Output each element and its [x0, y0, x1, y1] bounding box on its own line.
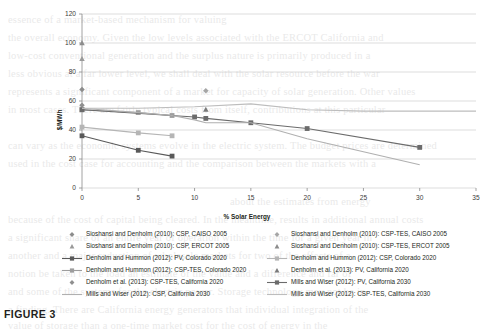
data-point [80, 133, 85, 138]
data-point [192, 115, 197, 120]
x-axis-title: % Solar Energy [224, 213, 271, 221]
legend-item-label: Denholm et al. (2013): CSP-TES, Californ… [86, 279, 223, 285]
legend-item[interactable]: Mills and Wiser (2012): CSP, California … [62, 290, 267, 299]
series-line [82, 110, 420, 148]
series-0 [79, 87, 85, 93]
series-line [82, 127, 172, 136]
legend-item-label: Mills and Wiser (2012): CSP, California … [86, 291, 210, 297]
legend-item-label: Sioshansi and Denholm (2010): CSP-TES, E… [291, 243, 449, 249]
y-tick-label: 60 [69, 97, 77, 104]
legend-item[interactable]: Denholm and Hummon (2012): PV, Colorado … [62, 254, 267, 263]
solar-value-scatter-chart: 05101520253035 020406080100120 % Solar E… [0, 0, 491, 225]
legend-item[interactable]: Sioshansi and Denholm (2010): CSP, ERCOT… [62, 242, 267, 251]
data-point [79, 40, 85, 45]
series-10 [82, 108, 420, 165]
x-tick-label: 0 [80, 194, 84, 201]
series-5 [80, 125, 175, 139]
legend-item-label: Mills and Wiser (2012): PV, California 2… [291, 279, 411, 285]
data-point [79, 103, 85, 109]
square-marker-icon [267, 278, 287, 287]
x-tick-labels: 05101520253035 [80, 194, 480, 201]
x-tick-label: 20 [303, 194, 311, 201]
series-2 [79, 56, 85, 61]
series-4 [80, 133, 175, 158]
series-9 [80, 107, 423, 150]
series-line [82, 136, 172, 156]
legend-item-label: Denholm et al. (2013): PV, California 20… [291, 267, 409, 273]
legend-item[interactable]: Denholm et al. (2013): PV, California 20… [267, 266, 482, 275]
x-tick-label: 35 [472, 194, 480, 201]
y-tick-labels: 020406080100120 [65, 10, 76, 191]
data-point [136, 148, 141, 153]
square-marker-icon [62, 266, 82, 275]
series-line [82, 104, 476, 111]
chart-plot-area: 05101520253035 020406080100120 % Solar E… [0, 0, 491, 225]
y-tick-label: 100 [65, 39, 76, 46]
data-point [170, 154, 175, 159]
legend-item[interactable]: Mills and Wiser (2012): CSP-TES, Califor… [267, 290, 482, 299]
legend-item[interactable]: Mills and Wiser (2012): PV, California 2… [267, 278, 482, 287]
line-marker-icon [267, 290, 287, 299]
legend-item-label: Denholm and Hummon (2012): CSP, Colorado… [291, 255, 436, 261]
legend-item[interactable]: Sioshansi and Denholm (2010): CSP-TES, E… [267, 242, 482, 251]
line-marker-icon [62, 290, 82, 299]
square-marker-icon [62, 254, 82, 263]
figure-caption: FIGURE 3 [4, 308, 56, 320]
data-point [136, 131, 141, 136]
legend-item[interactable]: Sioshansi and Denholm (2010): CSP-TES, C… [267, 230, 482, 239]
diamond-marker-icon [267, 230, 287, 239]
y-tick-label: 20 [69, 155, 77, 162]
legend-item-label: Sioshansi and Denholm (2010): CSP, ERCOT… [86, 243, 229, 249]
data-series-group [79, 40, 476, 165]
y-tick-label: 120 [65, 10, 76, 17]
legend-item-label: Sioshansi and Denholm (2010): CSP, CAISO… [86, 231, 227, 237]
data-point [203, 88, 209, 94]
series-8 [79, 103, 85, 109]
y-tick-label: 80 [69, 68, 77, 75]
chart-legend: Sioshansi and Denholm (2010): CSP, CAISO… [62, 228, 482, 301]
data-point [417, 145, 422, 150]
legend-item[interactable]: Sioshansi and Denholm (2010): CSP, CAISO… [62, 230, 267, 239]
y-tick-label: 40 [69, 126, 77, 133]
x-tick-label: 25 [360, 194, 368, 201]
legend-item[interactable]: Denholm and Hummon (2012): CSP-TES, Colo… [62, 266, 267, 275]
legend-item-label: Mills and Wiser (2012): CSP-TES, Califor… [291, 291, 430, 297]
y-axis-title: $/MWh [56, 110, 64, 131]
x-tick-label: 10 [191, 194, 199, 201]
series-7 [203, 107, 209, 112]
triangle-marker-icon [62, 242, 82, 251]
series-line [82, 108, 420, 165]
triangle-marker-icon [267, 242, 287, 251]
data-point [305, 126, 310, 131]
diamond-marker-icon [62, 278, 82, 287]
data-point [79, 87, 85, 93]
data-point [203, 107, 209, 112]
legend-item[interactable]: Denholm and Hummon (2012): CSP, Colorado… [267, 254, 482, 263]
legend-item-label: Sioshansi and Denholm (2010): CSP-TES, C… [291, 231, 447, 237]
square-marker-icon [267, 254, 287, 263]
data-point [80, 125, 85, 130]
legend-item-label: Denholm and Hummon (2012): PV, Colorado … [86, 255, 227, 261]
data-point [170, 133, 175, 138]
data-point [203, 116, 208, 121]
data-point [79, 56, 85, 61]
series-3 [79, 40, 85, 45]
legend-item-label: Denholm and Hummon (2012): CSP-TES, Colo… [86, 267, 246, 273]
series-11 [82, 104, 476, 111]
gridlines [82, 14, 476, 188]
x-tick-label: 5 [136, 194, 140, 201]
x-tick-label: 30 [416, 194, 424, 201]
diamond-marker-icon [62, 230, 82, 239]
y-tick-label: 0 [72, 184, 76, 191]
x-tick-label: 15 [247, 194, 255, 201]
series-1 [203, 88, 209, 94]
triangle-marker-icon [267, 266, 287, 275]
legend-item[interactable]: Denholm et al. (2013): CSP-TES, Californ… [62, 278, 267, 287]
